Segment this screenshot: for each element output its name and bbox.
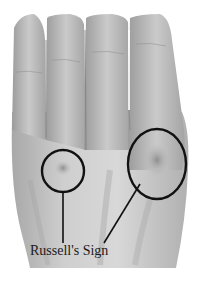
figure: Russell's Sign [0, 0, 199, 282]
annotation-label: Russell's Sign [30, 243, 140, 259]
finger-middle [46, 14, 86, 150]
finger-ring [84, 14, 130, 150]
hand-photo [0, 0, 199, 282]
finger-index [12, 14, 46, 140]
